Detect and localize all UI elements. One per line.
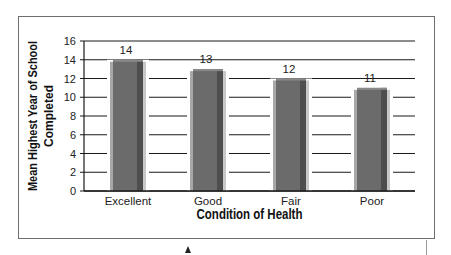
y-tick-label: 14 (64, 54, 76, 66)
y-tick-label: 0 (70, 185, 76, 197)
bar-value-label: 14 (120, 44, 133, 56)
bar-good (187, 69, 229, 191)
page-edge-line (426, 240, 427, 255)
bar-fair (270, 79, 312, 192)
bar-value-label: 12 (283, 63, 296, 75)
y-tick-label: 12 (64, 73, 76, 85)
y-tick-label: 8 (70, 110, 76, 122)
bar-poor (351, 88, 393, 191)
y-tick-label: 16 (64, 35, 76, 47)
caret-marker-icon (185, 246, 191, 253)
x-axis-label: Condition of Health (114, 206, 385, 222)
y-tick-label: 10 (64, 91, 76, 103)
y-tick-label: 4 (70, 148, 76, 160)
bar-excellent (107, 60, 149, 191)
bar-value-label: 13 (200, 53, 213, 65)
y-tick-label: 6 (70, 129, 76, 141)
bar-value-label: 11 (364, 72, 376, 84)
y-tick-label: 2 (70, 166, 76, 178)
